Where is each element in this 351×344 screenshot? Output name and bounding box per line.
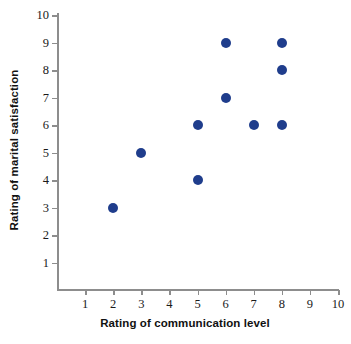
y-tick-label: 2 (43, 228, 49, 243)
data-point (221, 38, 231, 48)
x-tick-mark (282, 290, 284, 295)
x-tick-label: 4 (166, 297, 172, 312)
y-tick-mark (52, 235, 57, 237)
x-tick-mark (113, 290, 115, 295)
x-tick-mark (254, 290, 256, 295)
data-point (136, 148, 146, 158)
y-tick-label: 7 (43, 90, 49, 105)
x-tick-label: 5 (194, 297, 200, 312)
y-tick-label: 6 (43, 118, 49, 133)
x-tick-mark (310, 290, 312, 295)
y-tick-mark (52, 70, 57, 72)
y-tick-mark (52, 208, 57, 210)
y-tick-label: 1 (43, 255, 49, 270)
scatter-plot-figure: Rating of marital satisfaction 123456789… (0, 0, 351, 344)
plot-area: 12345678910 12345678910 (57, 15, 338, 290)
x-tick-mark (85, 290, 87, 295)
y-tick-label: 3 (43, 200, 49, 215)
x-tick-mark (226, 290, 228, 295)
x-tick-label: 1 (82, 297, 88, 312)
x-tick-mark (338, 290, 340, 295)
data-point (193, 120, 203, 130)
x-tick-label: 2 (110, 297, 116, 312)
x-tick-label: 10 (332, 297, 345, 312)
data-point (108, 203, 118, 213)
x-tick-mark (141, 290, 143, 295)
x-tick-mark (169, 290, 171, 295)
data-point (277, 65, 287, 75)
y-tick-mark (52, 125, 57, 127)
data-point (277, 120, 287, 130)
y-tick-label: 8 (43, 63, 49, 78)
y-tick-label: 4 (43, 173, 49, 188)
x-tick-label: 6 (222, 297, 228, 312)
y-tick-mark (52, 15, 57, 17)
x-tick-label: 7 (251, 297, 257, 312)
data-point (249, 120, 259, 130)
data-point (193, 175, 203, 185)
y-tick-mark (52, 43, 57, 45)
y-axis-title-text: Rating of marital satisfaction (8, 70, 20, 231)
data-point (277, 38, 287, 48)
x-tick-mark (198, 290, 200, 295)
x-tick-label: 3 (138, 297, 144, 312)
y-tick-mark (52, 98, 57, 100)
y-tick-mark (52, 263, 57, 265)
y-tick-label: 5 (43, 145, 49, 160)
y-tick-label: 10 (37, 8, 50, 23)
x-tick-label: 9 (307, 297, 313, 312)
y-axis-title: Rating of marital satisfaction (0, 0, 28, 300)
data-point (221, 93, 231, 103)
y-tick-mark (52, 180, 57, 182)
y-tick-mark (52, 153, 57, 155)
x-tick-label: 8 (279, 297, 285, 312)
x-axis-title: Rating of communication level (30, 317, 340, 329)
y-tick-label: 9 (43, 35, 49, 50)
